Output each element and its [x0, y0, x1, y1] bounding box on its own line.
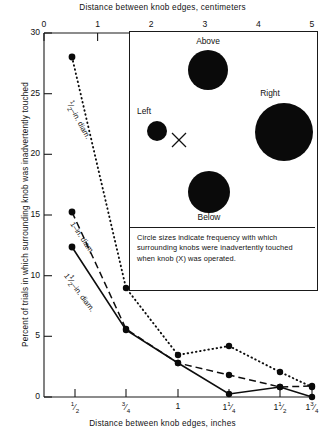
inset-bubble-left [147, 121, 167, 141]
inset-divider [130, 227, 315, 228]
bottom-tick-label-one: 1 [166, 401, 190, 411]
inset-caption: Circle sizes indicate frequency with whi… [137, 233, 309, 264]
inset-center-x-icon [170, 131, 188, 149]
y-tick-label-30: 30 [12, 27, 40, 37]
bottom-tick-label-half: 1⁄2 [63, 401, 87, 414]
bottom-tick-label-three-quarter: 3⁄4 [114, 401, 138, 414]
top-tick-label-5: 5 [300, 19, 324, 29]
bottom-tick-label-one-half: 11⁄2 [266, 401, 294, 414]
inset-label-right: Right [240, 88, 300, 98]
top-tick-label-4: 4 [246, 19, 270, 29]
y-tick-label-15: 15 [12, 209, 40, 219]
top-tick-label-1: 1 [86, 19, 110, 29]
figure-root: Distance between knob edges, centimeters… [0, 0, 325, 433]
y-tick-label-10: 10 [12, 270, 40, 280]
inset-bubble-below [188, 171, 230, 213]
bottom-axis-ticks [75, 389, 312, 397]
y-axis-ticks [44, 33, 52, 397]
y-tick-label-5: 5 [12, 330, 40, 340]
y-tick-label-25: 25 [12, 88, 40, 98]
inset-label-left: Left [119, 106, 169, 116]
inset-label-below: Below [179, 212, 239, 222]
y-tick-label-20: 20 [12, 148, 40, 158]
inset-label-above: Above [178, 36, 238, 46]
top-tick-label-3: 3 [193, 19, 217, 29]
inset-bubble-above [188, 50, 228, 90]
bottom-tick-label-one-three-quarter: 13⁄4 [298, 401, 325, 414]
y-tick-label-0: 0 [12, 391, 40, 401]
bottom-tick-label-one-quarter: 11⁄4 [215, 401, 243, 414]
inset-bubble-right [255, 103, 313, 161]
top-tick-label-2: 2 [139, 19, 163, 29]
